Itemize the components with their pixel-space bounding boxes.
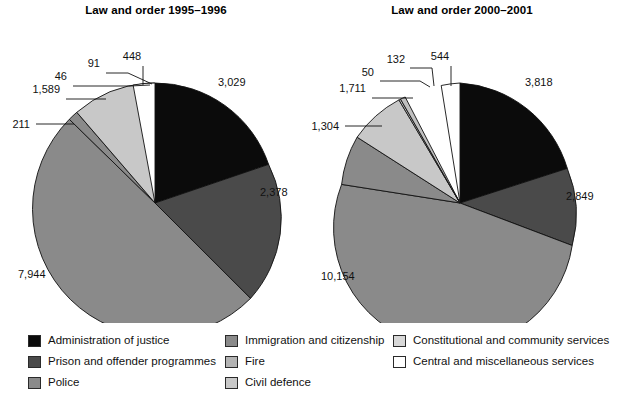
legend-swatch-icon <box>225 377 238 389</box>
legend-label: Police <box>48 376 79 389</box>
pie-right-svg: 544 132 50 1,711 1,304 3,818 2,849 10,15… <box>310 18 621 323</box>
legend-item-police[interactable]: Police <box>28 372 228 393</box>
label-1711: 1,711 <box>339 82 366 94</box>
label-2849: 2,849 <box>566 190 594 202</box>
leader-46 <box>73 85 150 86</box>
legend: Administration of justice Prison and off… <box>0 330 621 400</box>
leader-132 <box>410 68 434 86</box>
legend-label: Prison and offender programmes <box>48 355 216 368</box>
legend-swatch-icon <box>225 335 238 347</box>
legend-swatch-icon <box>28 356 41 368</box>
leader-50 <box>380 81 430 87</box>
legend-item-immigration-and-citizenship[interactable]: Immigration and citizenship <box>225 330 400 351</box>
legend-label: Constitutional and community services <box>413 334 609 347</box>
legend-item-administration-of-justice[interactable]: Administration of justice <box>28 330 228 351</box>
legend-column-1: Administration of justice Prison and off… <box>28 330 228 393</box>
legend-item-constitutional-and-community-services[interactable]: Constitutional and community services <box>393 330 618 351</box>
pie-right-slices <box>334 83 577 323</box>
pie-chart-left: 448 91 46 1,589 211 3,029 2,378 7,944 <box>0 18 310 323</box>
legend-label: Central and miscellaneous services <box>413 355 594 368</box>
label-46: 46 <box>55 70 67 82</box>
label-211: 211 <box>12 118 30 130</box>
legend-column-2: Immigration and citizenship Fire Civil d… <box>225 330 400 393</box>
label-448: 448 <box>123 50 141 62</box>
chart-title-left: Law and order 1995–1996 <box>6 4 306 16</box>
legend-label: Civil defence <box>245 376 311 389</box>
legend-label: Fire <box>245 355 265 368</box>
pie-left-svg: 448 91 46 1,589 211 3,029 2,378 7,944 <box>0 18 310 323</box>
legend-label: Administration of justice <box>48 334 169 347</box>
leader-91 <box>106 73 152 84</box>
legend-item-prison-and-offender-programmes[interactable]: Prison and offender programmes <box>28 351 228 372</box>
legend-label: Immigration and citizenship <box>245 334 384 347</box>
legend-item-central-and-miscellaneous-services[interactable]: Central and miscellaneous services <box>393 351 618 372</box>
label-50: 50 <box>362 66 374 78</box>
label-3818: 3,818 <box>525 76 553 88</box>
label-1589: 1,589 <box>32 83 60 95</box>
label-132: 132 <box>387 53 405 65</box>
label-7944: 7,944 <box>18 268 46 280</box>
legend-swatch-icon <box>393 335 406 347</box>
label-3029: 3,029 <box>218 76 246 88</box>
legend-swatch-icon <box>28 377 41 389</box>
label-91: 91 <box>88 57 100 69</box>
label-2378: 2,378 <box>260 186 288 198</box>
label-10154: 10,154 <box>321 270 355 282</box>
legend-column-3: Constitutional and community services Ce… <box>393 330 618 372</box>
legend-item-fire[interactable]: Fire <box>225 351 400 372</box>
label-544: 544 <box>431 50 449 62</box>
pie-chart-right: 544 132 50 1,711 1,304 3,818 2,849 10,15… <box>310 18 621 323</box>
chart-title-right: Law and order 2000–2001 <box>312 4 612 16</box>
label-1304: 1,304 <box>311 120 339 132</box>
legend-item-civil-defence[interactable]: Civil defence <box>225 372 400 393</box>
legend-swatch-icon <box>225 356 238 368</box>
legend-swatch-icon <box>28 335 41 347</box>
pie-left-slices <box>33 83 282 323</box>
legend-swatch-icon <box>393 356 406 368</box>
